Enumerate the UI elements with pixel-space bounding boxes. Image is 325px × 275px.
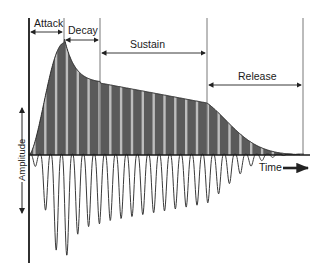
- time-indicator: Time: [259, 161, 308, 173]
- release-label: Release: [238, 70, 277, 82]
- envelope-stripe: [153, 0, 155, 155]
- envelope-stripe: [185, 0, 187, 155]
- envelope-stripe: [120, 0, 122, 155]
- envelope-stripe: [196, 0, 198, 155]
- decay-label: Decay: [68, 24, 99, 36]
- amplitude-label: Amplitude: [16, 139, 27, 181]
- time-label: Time: [259, 161, 282, 173]
- envelope-stripe: [293, 0, 295, 155]
- envelope-stripe: [174, 0, 176, 155]
- envelope-stripe: [228, 0, 230, 155]
- envelope-stripe: [163, 0, 165, 155]
- envelope-stripe: [283, 0, 285, 155]
- envelope-stripe: [131, 0, 133, 155]
- adsr-diagram: Attack Decay Sustain Release Amplitude T…: [0, 0, 325, 275]
- envelope-stripe: [218, 0, 220, 155]
- envelope-stripe: [109, 0, 111, 155]
- attack-label: Attack: [34, 17, 64, 29]
- amplitude-indicator: Amplitude: [16, 108, 27, 213]
- envelope-stripe: [142, 0, 144, 155]
- sustain-label: Sustain: [130, 38, 165, 50]
